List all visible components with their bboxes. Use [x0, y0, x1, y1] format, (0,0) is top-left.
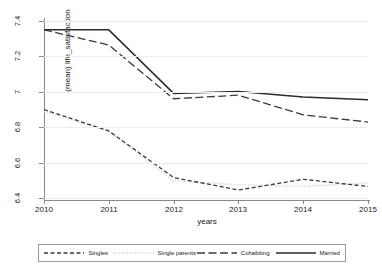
x-tick-mark: [303, 200, 304, 204]
x-tick-mark: [109, 200, 110, 204]
series-line-single-parents: [44, 111, 368, 186]
x-tick-label: 2010: [24, 205, 64, 215]
gridline: [44, 163, 368, 164]
legend-label-married: Married: [320, 250, 340, 257]
x-axis-line: [44, 200, 370, 201]
legend-label-singles: Singles: [88, 250, 108, 257]
legend-item-single-parents: Single parents: [114, 250, 196, 257]
x-tick-mark: [44, 200, 45, 204]
legend-swatch-married: [276, 250, 316, 256]
series-line-singles: [44, 110, 368, 191]
y-tick-label: 6.8: [13, 109, 23, 145]
series-line-cohabiting: [44, 30, 368, 122]
legend-label-single-parents: Single parents: [158, 250, 196, 257]
y-tick-label: 7.2: [13, 38, 23, 74]
x-tick-mark: [238, 200, 239, 204]
gridline: [44, 92, 368, 93]
x-tick-label: 2011: [89, 205, 129, 215]
gridline: [44, 127, 368, 128]
gridline: [44, 21, 368, 22]
y-tick-label: 7: [13, 74, 23, 110]
x-tick-mark: [368, 200, 369, 204]
chart-legend: Singles Single parents Cohabiting Marrie…: [38, 244, 346, 262]
y-axis-tick-labels: 7.4 7.2 7 6.8 6.6 6.4: [0, 0, 44, 220]
x-tick-label: 2013: [218, 205, 258, 215]
line-chart: (mean) life_satisfaction 7.4 7.2 7 6.8 6…: [0, 0, 382, 273]
gridline: [44, 198, 368, 199]
legend-swatch-singles: [44, 250, 84, 256]
legend-item-cohabiting: Cohabiting: [196, 250, 271, 257]
x-tick-mark: [174, 200, 175, 204]
legend-label-cohabiting: Cohabiting: [241, 250, 270, 257]
legend-swatch-single-parents: [114, 250, 154, 256]
x-tick-label: 2015: [348, 205, 382, 215]
legend-swatch-cohabiting: [197, 250, 237, 256]
series-container: [44, 20, 368, 199]
y-tick-label: 7.4: [13, 3, 23, 39]
x-axis-title: years: [44, 217, 370, 226]
y-tick-label: 6.6: [13, 145, 23, 181]
gridline: [44, 56, 368, 57]
legend-item-married: Married: [270, 250, 345, 257]
legend-item-singles: Singles: [39, 250, 114, 257]
x-tick-label: 2014: [283, 205, 323, 215]
series-line-married: [44, 30, 368, 100]
y-tick-label: 6.4: [13, 180, 23, 216]
plot-area: [44, 20, 368, 199]
x-tick-label: 2012: [154, 205, 194, 215]
